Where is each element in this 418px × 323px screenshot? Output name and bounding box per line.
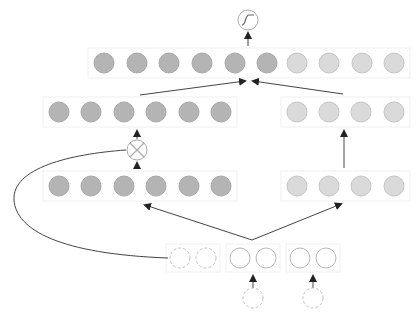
node	[351, 102, 371, 122]
edge-right-upper-to-concat	[253, 81, 343, 94]
node	[257, 53, 277, 73]
node	[94, 53, 114, 73]
node	[287, 176, 307, 196]
right-lower-layer	[287, 176, 404, 196]
node	[384, 176, 404, 196]
node	[256, 248, 276, 268]
dashed-node	[196, 248, 216, 268]
node	[287, 53, 307, 73]
node	[287, 102, 307, 122]
node	[127, 53, 147, 73]
node	[384, 53, 404, 73]
left-lower-layer	[49, 176, 231, 196]
edge-left-upper-to-concat	[140, 81, 245, 95]
node	[211, 176, 231, 196]
node	[114, 176, 134, 196]
left-upper-layer	[49, 102, 231, 122]
left-upper-box	[43, 97, 237, 127]
node	[179, 102, 199, 122]
node	[114, 102, 134, 122]
node	[319, 102, 339, 122]
node	[49, 102, 69, 122]
node	[81, 176, 101, 196]
node	[81, 102, 101, 122]
node	[352, 53, 372, 73]
top-concat-layer	[94, 53, 404, 73]
sigmoid-op	[238, 10, 258, 30]
node	[192, 53, 212, 73]
node	[225, 53, 245, 73]
layer-boxes	[43, 48, 410, 272]
dashed-node	[303, 288, 323, 308]
right-upper-layer	[287, 102, 404, 122]
node	[49, 176, 69, 196]
node	[230, 248, 250, 268]
node	[351, 176, 371, 196]
node	[179, 176, 199, 196]
node	[319, 176, 339, 196]
input-layer	[170, 248, 336, 268]
network-diagram	[0, 0, 418, 323]
edge-recurrent-curve	[14, 150, 168, 258]
edge-input-to-right-lower	[252, 204, 341, 240]
node	[159, 53, 179, 73]
node	[384, 102, 404, 122]
node	[211, 102, 231, 122]
bottom-inputs	[243, 288, 323, 308]
node	[316, 248, 336, 268]
node	[290, 248, 310, 268]
left-lower-box	[43, 171, 237, 201]
dashed-node	[170, 248, 190, 268]
node	[146, 176, 166, 196]
node	[319, 53, 339, 73]
edge-input-to-left-lower	[145, 205, 252, 240]
multiply-op	[127, 140, 147, 160]
node	[146, 102, 166, 122]
dashed-node	[243, 288, 263, 308]
